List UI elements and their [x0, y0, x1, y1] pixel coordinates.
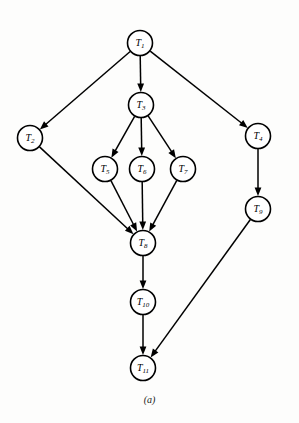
- edge-t6-to-t8: [142, 182, 143, 223]
- node-t9[interactable]: T9: [246, 197, 271, 222]
- edge-t9-to-t11: [155, 220, 251, 352]
- arrowhead-t7-to-t8: [149, 222, 156, 231]
- edge-t1-to-t2: [45, 52, 130, 125]
- arrowhead-t3-to-t6: [138, 147, 145, 156]
- edge-t7-to-t8: [153, 180, 177, 225]
- node-t7[interactable]: T7: [171, 157, 196, 182]
- node-t6[interactable]: T6: [130, 157, 155, 182]
- arrowhead-t8-to-t10: [140, 281, 147, 290]
- arrowhead-t10-to-t11: [140, 347, 147, 356]
- node-t2[interactable]: T2: [18, 126, 43, 151]
- figure-panel: T1T2T3T4T5T6T7T8T9T10T11 (a): [0, 0, 299, 423]
- node-t11[interactable]: T11: [131, 356, 156, 381]
- edge-t1-to-t4: [150, 51, 242, 123]
- node-t5[interactable]: T5: [93, 157, 118, 182]
- figure-caption: (a): [0, 394, 299, 405]
- arrowhead-t1-to-t3: [137, 83, 144, 92]
- node-layer: T1T2T3T4T5T6T7T8T9T10T11: [18, 31, 271, 381]
- node-t1[interactable]: T1: [128, 31, 153, 56]
- arrowhead-t9-to-t11: [151, 349, 159, 358]
- node-t3[interactable]: T3: [129, 93, 154, 118]
- arrowhead-t3-to-t5: [111, 149, 118, 158]
- arrowhead-t6-to-t8: [139, 221, 146, 230]
- edge-t3-to-t5: [115, 116, 135, 151]
- node-t4[interactable]: T4: [246, 124, 271, 149]
- edge-t3-to-t7: [148, 116, 172, 152]
- node-t8[interactable]: T8: [131, 231, 156, 256]
- edge-t5-to-t8: [111, 181, 134, 225]
- task-graph: T1T2T3T4T5T6T7T8T9T10T11: [0, 0, 299, 423]
- arrowhead-t3-to-t7: [168, 149, 176, 158]
- node-t10[interactable]: T10: [131, 290, 156, 315]
- arrowhead-t4-to-t9: [255, 188, 262, 197]
